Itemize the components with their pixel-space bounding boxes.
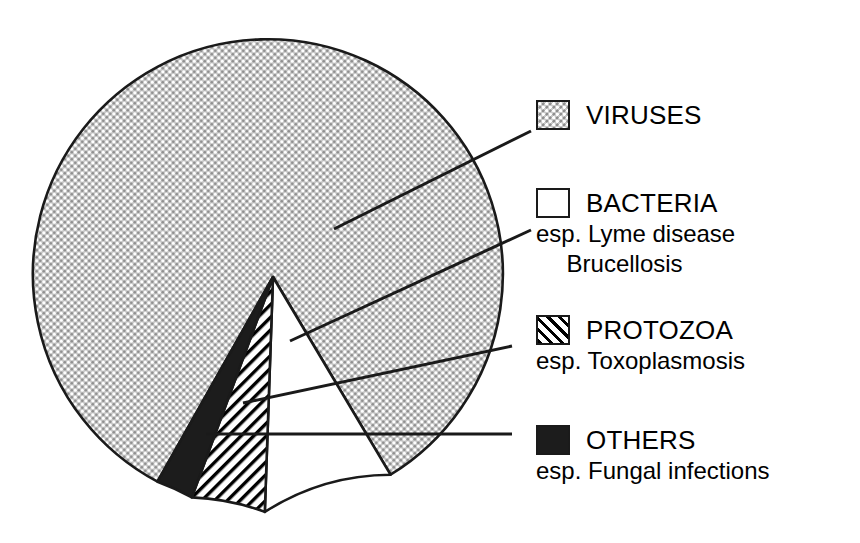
- legend-label-viruses: VIRUSES: [586, 100, 702, 130]
- protozoa-swatch-icon: [536, 315, 570, 345]
- legend-entry-others[interactable]: OTHERS esp. Fungal infections: [536, 425, 769, 485]
- pie-chart-figure: VIRUSES BACTERIA esp. Lyme disease Bruce…: [0, 0, 860, 543]
- legend-sub-bacteria-1: esp. Lyme disease: [536, 219, 735, 248]
- legend-entry-protozoa[interactable]: PROTOZOA esp. Toxoplasmosis: [536, 315, 745, 375]
- legend-entry-viruses[interactable]: VIRUSES: [536, 100, 702, 130]
- legend-sub-others-1: esp. Fungal infections: [536, 456, 769, 485]
- legend-label-bacteria: BACTERIA: [586, 188, 718, 218]
- legend-entry-bacteria[interactable]: BACTERIA esp. Lyme disease Brucellosis: [536, 188, 735, 278]
- viruses-swatch-icon: [536, 100, 570, 130]
- legend-sub-bacteria-2: Brucellosis: [536, 249, 735, 278]
- legend-sub-protozoa-1: esp. Toxoplasmosis: [536, 346, 745, 375]
- bacteria-swatch-icon: [536, 188, 570, 218]
- legend-label-others: OTHERS: [586, 425, 696, 455]
- others-swatch-icon: [536, 425, 570, 455]
- legend-label-protozoa: PROTOZOA: [586, 315, 733, 345]
